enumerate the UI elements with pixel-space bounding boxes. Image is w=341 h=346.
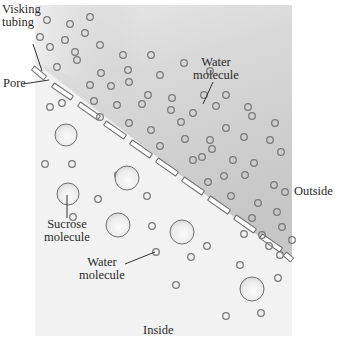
sucrose-molecule [115, 166, 139, 190]
sucrose-line2: molecule [44, 231, 90, 244]
sucrose-molecule-label: Sucrose molecule [44, 218, 90, 244]
water-bottom-line2: molecule [79, 269, 125, 282]
visking-label-line2: tubing [2, 16, 41, 29]
pore-label: Pore [3, 77, 26, 90]
water-molecule-label-top: Water molecule [193, 56, 239, 82]
sucrose-molecule [57, 183, 79, 205]
visking-tubing-label: Visking tubing [2, 3, 41, 29]
osmosis-diagram [0, 0, 341, 346]
inside-label: Inside [143, 324, 174, 337]
water-top-line2: molecule [193, 69, 239, 82]
sucrose-molecule [55, 124, 77, 146]
sucrose-molecule [106, 213, 130, 237]
sucrose-molecule [170, 220, 194, 244]
outside-label: Outside [294, 185, 333, 198]
water-molecule-label-bottom: Water molecule [79, 256, 125, 282]
sucrose-molecule [240, 277, 264, 301]
